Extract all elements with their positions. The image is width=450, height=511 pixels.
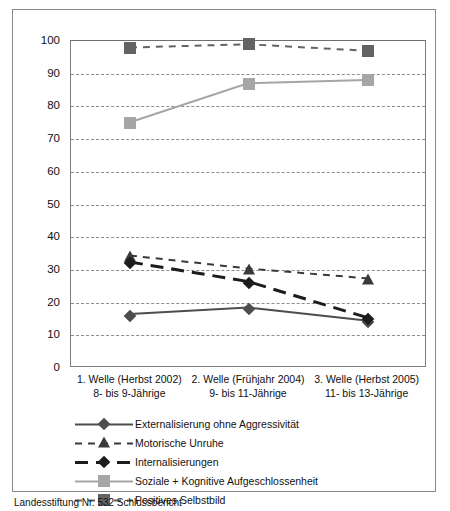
y-tick-label: 100 — [41, 35, 60, 46]
bottom-caption: Landesstiftung Nr. 532 Schlussbericht — [14, 497, 182, 508]
y-tick-label: 0 — [54, 362, 60, 373]
y-tick-label: 50 — [47, 198, 60, 209]
legend-item[interactable]: Internalisierungen — [73, 454, 423, 471]
x-category-sublabel: 11- bis 13-Jährige — [314, 386, 419, 400]
x-category-label: 2. Welle (Frühjahr 2004)9- bis 11-Jährig… — [191, 372, 304, 400]
data-point-marker — [362, 74, 374, 86]
y-tick-label: 20 — [47, 296, 60, 307]
x-category-label: 3. Welle (Herbst 2005)11- bis 13-Jährige — [314, 372, 419, 400]
legend-label: Soziale + Kognitive Aufgeschlossenheit — [135, 475, 318, 488]
data-point-marker — [362, 45, 374, 57]
chart-figure-frame: 0102030405060708090100 1. Welle (Herbst … — [12, 9, 436, 492]
legend-item[interactable]: Externalisierung ohne Aggressivität — [73, 416, 423, 433]
data-point-marker — [124, 42, 136, 54]
legend-key — [73, 436, 135, 451]
data-point-marker — [362, 273, 374, 284]
y-tick-label: 70 — [47, 133, 60, 144]
legend-marker-shape — [98, 436, 110, 447]
legend-item[interactable]: Motorische Unruhe — [73, 435, 423, 452]
legend-key — [73, 474, 135, 489]
y-tick-label: 60 — [47, 165, 60, 176]
data-point-marker — [124, 309, 137, 322]
data-point-marker — [243, 78, 255, 90]
x-category-title: 2. Welle (Frühjahr 2004) — [191, 372, 304, 386]
data-point-marker — [243, 263, 255, 274]
legend-key — [73, 455, 135, 470]
series-markers — [71, 41, 425, 366]
data-point-marker — [124, 117, 136, 129]
legend-item[interactable]: Soziale + Kognitive Aufgeschlossenheit — [73, 473, 423, 490]
legend-label: Motorische Unruhe — [135, 437, 224, 450]
x-category-title: 1. Welle (Herbst 2002) — [77, 372, 182, 386]
x-category-label: 1. Welle (Herbst 2002)8- bis 9-Jährige — [77, 372, 182, 400]
legend-label: Externalisierung ohne Aggressivität — [135, 418, 299, 431]
x-axis: 1. Welle (Herbst 2002)8- bis 9-Jährige2.… — [70, 372, 426, 408]
x-category-title: 3. Welle (Herbst 2005) — [314, 372, 419, 386]
plot-area — [70, 40, 426, 367]
data-point-marker — [243, 303, 256, 316]
legend-label: Internalisierungen — [135, 456, 218, 469]
data-point-marker — [243, 38, 255, 50]
y-axis: 0102030405060708090100 — [25, 40, 65, 367]
data-point-marker — [243, 277, 256, 290]
y-tick-label: 10 — [47, 329, 60, 340]
y-tick-label: 80 — [47, 100, 60, 111]
legend-marker-shape — [98, 475, 110, 487]
x-category-sublabel: 9- bis 11-Jährige — [191, 386, 304, 400]
y-tick-label: 90 — [47, 67, 60, 78]
legend-key — [73, 417, 135, 432]
y-tick-label: 40 — [47, 231, 60, 242]
x-category-sublabel: 8- bis 9-Jährige — [77, 386, 182, 400]
y-tick-label: 30 — [47, 263, 60, 274]
